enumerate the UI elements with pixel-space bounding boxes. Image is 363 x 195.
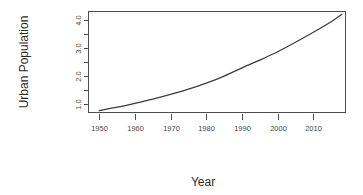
- y-tick-label: 4.0: [74, 15, 83, 25]
- x-tick-label: 2010: [305, 124, 322, 133]
- urban-population-line-chart: 1.02.03.04.0 195019601970198019902000201…: [0, 0, 363, 195]
- x-tick-label: 1970: [163, 124, 180, 133]
- x-tick-label: 1990: [234, 124, 251, 133]
- x-tick-label: 1980: [198, 124, 215, 133]
- x-tick-label: 1950: [91, 124, 108, 133]
- y-axis-title: Urban Population: [17, 16, 31, 109]
- x-tick-label: 1960: [127, 124, 144, 133]
- x-axis: 1950196019701980199020002010: [91, 114, 322, 133]
- y-tick-label: 1.0: [74, 99, 83, 109]
- y-axis: 1.02.03.04.0: [74, 15, 88, 109]
- chart-figure: 1.02.03.04.0 195019601970198019902000201…: [0, 0, 363, 195]
- plot-area-border: [89, 12, 346, 113]
- data-series-group: [99, 14, 342, 110]
- y-tick-label: 2.0: [74, 71, 83, 81]
- x-tick-label: 2000: [270, 124, 287, 133]
- y-tick-label: 3.0: [74, 43, 83, 53]
- data-line-urban-population: [99, 14, 342, 110]
- x-axis-title: Year: [191, 175, 215, 189]
